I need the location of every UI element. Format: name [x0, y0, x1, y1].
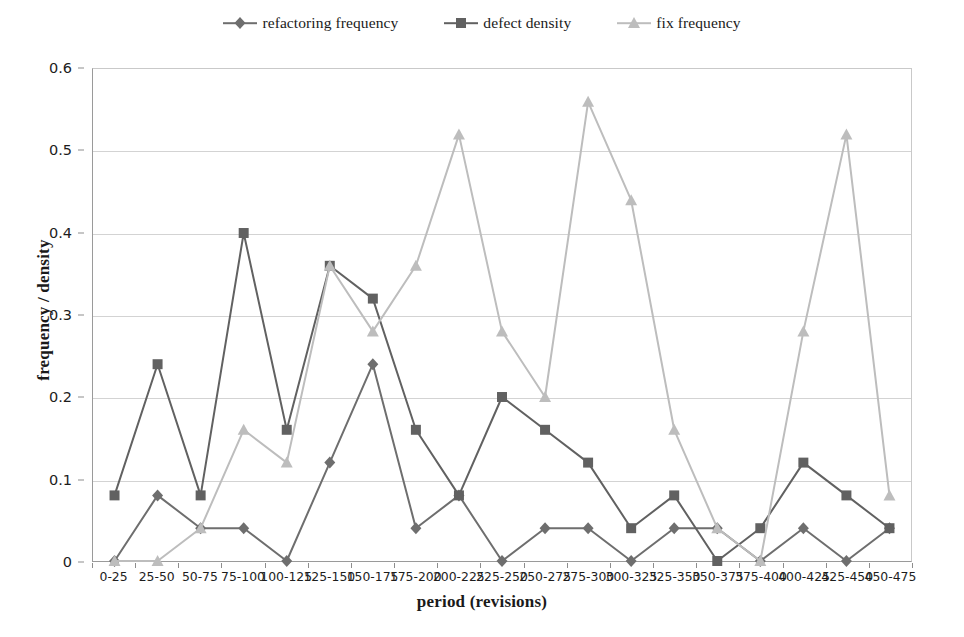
- x-axis-tick-mark: [92, 563, 93, 568]
- x-axis-tick-mark: [351, 563, 352, 568]
- plot-area: [92, 68, 912, 562]
- data-point-marker: [367, 325, 379, 336]
- series-refactoring-frequency: [109, 358, 895, 567]
- data-point-marker: [453, 129, 465, 140]
- y-axis-tick-label: 0.5: [49, 142, 72, 158]
- data-point-marker: [238, 424, 250, 435]
- legend-item[interactable]: defect density: [444, 14, 571, 32]
- data-point-marker: [238, 522, 249, 534]
- x-axis-tick-mark: [610, 563, 611, 568]
- data-point-marker: [755, 523, 765, 533]
- data-point-marker: [367, 358, 378, 370]
- data-point-marker: [798, 522, 809, 534]
- data-point-marker: [196, 490, 206, 500]
- x-axis-tick-label: 0-25: [100, 569, 128, 584]
- data-point-marker: [841, 490, 851, 500]
- legend-marker-glyph: [233, 16, 247, 30]
- data-point-marker: [539, 391, 551, 402]
- x-axis-tick-mark: [869, 563, 870, 568]
- data-point-marker: [884, 523, 894, 533]
- data-point-marker: [456, 18, 466, 28]
- x-axis-tick-mark: [912, 563, 913, 568]
- y-axis-tick-label: 0.6: [49, 60, 72, 76]
- legend-item[interactable]: refactoring frequency: [223, 14, 398, 32]
- x-axis-tick-mark: [480, 563, 481, 568]
- y-axis-tick-mark: [78, 479, 84, 480]
- data-point-marker: [583, 522, 594, 534]
- data-point-marker: [628, 17, 640, 28]
- x-axis-tick-mark: [567, 563, 568, 568]
- x-axis-tick-mark: [308, 563, 309, 568]
- data-point-marker: [540, 522, 551, 534]
- data-point-marker: [840, 129, 852, 140]
- chart-legend: refactoring frequencydefect densityfix f…: [0, 14, 964, 32]
- x-axis-tick-mark: [178, 563, 179, 568]
- x-axis-tick-mark: [739, 563, 740, 568]
- y-axis-tick-mark: [78, 397, 84, 398]
- x-axis-tick-mark: [783, 563, 784, 568]
- legend-label: refactoring frequency: [262, 14, 398, 32]
- series-fix-frequency: [109, 96, 896, 566]
- y-axis-tick-label: 0.1: [49, 472, 72, 488]
- series-layer: [93, 69, 911, 561]
- data-point-marker: [410, 260, 422, 271]
- x-axis-tick-mark: [437, 563, 438, 568]
- x-axis-tick-mark: [221, 563, 222, 568]
- y-axis-tick-mark: [78, 562, 84, 563]
- x-axis-ticks: 0-2525-5050-7575-100100-125125-150150-17…: [92, 563, 912, 589]
- x-axis-tick-mark: [524, 563, 525, 568]
- data-point-marker: [798, 458, 808, 468]
- y-axis-tick-mark: [78, 68, 84, 69]
- data-point-marker: [411, 425, 421, 435]
- data-point-marker: [583, 458, 593, 468]
- legend-marker-glyph: [454, 16, 468, 30]
- legend-marker-diamond-icon: [223, 17, 257, 29]
- data-point-marker: [324, 457, 335, 469]
- data-point-marker: [669, 490, 679, 500]
- legend-item[interactable]: fix frequency: [617, 14, 740, 32]
- x-axis-tick-mark: [826, 563, 827, 568]
- series-defect-density: [110, 228, 895, 566]
- legend-label: defect density: [483, 14, 571, 32]
- data-point-marker: [235, 17, 246, 29]
- y-axis-tick-mark: [78, 232, 84, 233]
- x-axis-tick-label: 50-75: [182, 569, 218, 584]
- x-axis-tick-mark: [696, 563, 697, 568]
- data-point-marker: [668, 424, 680, 435]
- data-point-marker: [883, 489, 895, 500]
- data-point-marker: [625, 194, 637, 205]
- x-axis-title: period (revisions): [0, 592, 964, 612]
- x-axis-tick-mark: [653, 563, 654, 568]
- data-point-marker: [626, 523, 636, 533]
- data-point-marker: [410, 522, 421, 534]
- data-point-marker: [282, 425, 292, 435]
- data-point-marker: [110, 490, 120, 500]
- data-point-marker: [540, 425, 550, 435]
- x-axis-tick-mark: [135, 563, 136, 568]
- y-axis-tick-label: 0: [63, 554, 72, 570]
- data-point-marker: [669, 522, 680, 534]
- legend-marker-glyph: [627, 16, 641, 30]
- x-axis-tick-mark: [265, 563, 266, 568]
- legend-marker-square-icon: [444, 17, 478, 29]
- chart-container: refactoring frequencydefect densityfix f…: [0, 0, 964, 637]
- x-axis-tick-label: 75-100: [221, 569, 265, 584]
- data-point-marker: [582, 96, 594, 107]
- x-axis-tick-label: 25-50: [139, 569, 175, 584]
- data-point-marker: [239, 228, 249, 238]
- data-point-marker: [368, 294, 378, 304]
- x-axis-tick-label: 450-475: [865, 569, 917, 584]
- y-axis-tick-mark: [78, 150, 84, 151]
- legend-marker-triangle-icon: [617, 17, 651, 29]
- data-point-marker: [497, 392, 507, 402]
- data-point-marker: [454, 490, 464, 500]
- legend-label: fix frequency: [656, 14, 740, 32]
- data-point-marker: [797, 325, 809, 336]
- data-point-marker: [496, 325, 508, 336]
- data-point-marker: [153, 359, 163, 369]
- x-axis-tick-mark: [394, 563, 395, 568]
- y-axis-tick-mark: [78, 315, 84, 316]
- y-axis-title: frequency / density: [34, 190, 54, 430]
